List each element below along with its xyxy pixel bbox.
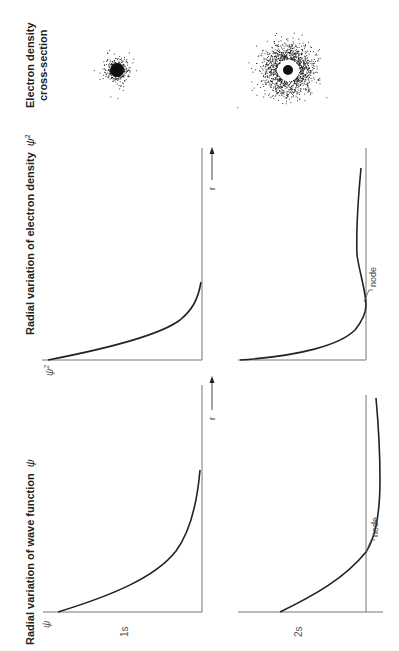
- cross-section-2s: [237, 33, 327, 109]
- panel-1s-psi: ψ r: [41, 376, 217, 628]
- panel-2s-psi2: node: [238, 148, 378, 360]
- node-label-psi2: node: [368, 267, 378, 287]
- psi2-axis-label: ψ2: [43, 365, 55, 376]
- arrow-head-icon: [210, 376, 215, 383]
- panel-2s-psi: node: [238, 395, 383, 612]
- header-wave-function: Radial variation of wave function ψ: [24, 459, 36, 645]
- psi-axis-label: ψ: [41, 620, 52, 628]
- svg-text:r: r: [207, 187, 217, 190]
- curve-1s-psi2: [48, 282, 201, 360]
- arrow-head-icon: [210, 147, 215, 154]
- header-cross-section-line1: Electron density: [24, 22, 36, 108]
- r-arrow-1s-psi2: r: [207, 147, 217, 190]
- curve-1s-psi: [58, 470, 200, 612]
- svg-text:r: r: [207, 417, 217, 420]
- row-label-2s: 2s: [293, 626, 304, 637]
- node-label-psi: node: [370, 517, 380, 537]
- panel-1s-psi2: ψ2 r: [42, 147, 217, 376]
- header-electron-density: Radial variation of electron density ψ2: [24, 134, 36, 335]
- row-label-1s: 1s: [119, 626, 130, 637]
- curve-2s-psi: [280, 398, 380, 612]
- orbital-diagram: Radial variation of wave function ψ Radi…: [0, 0, 399, 651]
- header-cross-section-line2: cross-section: [37, 29, 49, 101]
- curve-2s-psi2: [240, 168, 366, 360]
- r-arrow-1s: r: [207, 376, 217, 420]
- cross-section-1s: [94, 50, 137, 99]
